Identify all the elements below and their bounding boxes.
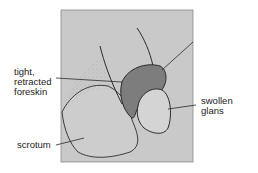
label-scrotum: scrotum — [17, 140, 51, 150]
label-glans-line2: glans — [201, 106, 233, 116]
label-foreskin-line3: foreskin — [14, 87, 52, 97]
label-foreskin: tight, retracted foreskin — [14, 67, 52, 97]
glans-shape — [137, 89, 170, 133]
label-glans: swollen glans — [201, 96, 233, 116]
